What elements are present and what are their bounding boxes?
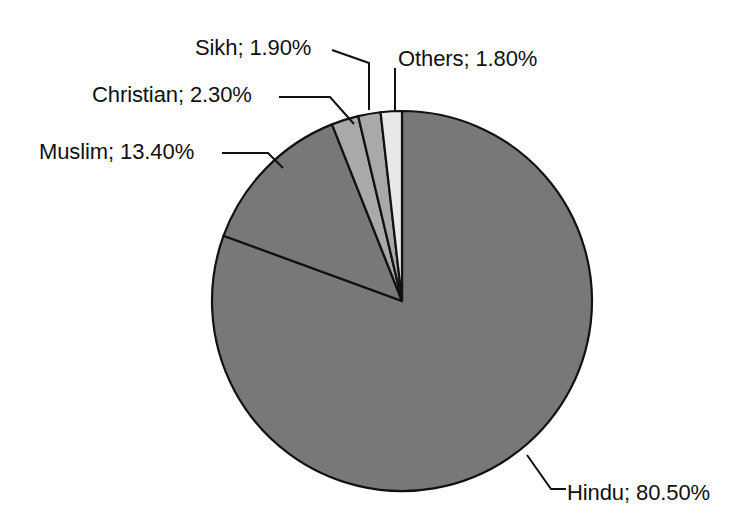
pie-chart-page: Sikh; 1.90% Others; 1.80% Christian; 2.3… <box>0 0 739 526</box>
pie-label-others: Others; 1.80% <box>398 48 537 70</box>
pie-chart-figure <box>0 0 739 526</box>
pie-slices <box>212 111 592 491</box>
pie-label-hindu: Hindu; 80.50% <box>567 482 710 504</box>
leader-line-hindu <box>527 455 566 489</box>
pie-label-christian: Christian; 2.30% <box>92 84 252 106</box>
pie-label-muslim: Muslim; 13.40% <box>39 141 194 163</box>
leader-line-sikh <box>332 50 369 110</box>
pie-label-sikh: Sikh; 1.90% <box>195 37 311 59</box>
